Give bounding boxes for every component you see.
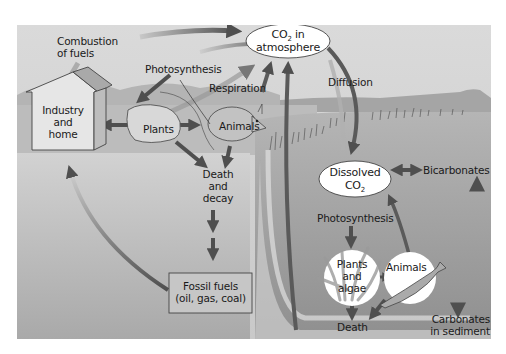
co2-text: CO xyxy=(271,28,287,41)
animals-land-node: Animals xyxy=(219,120,259,132)
plants-text: Plants xyxy=(330,258,374,270)
respiration-label: Respiration xyxy=(209,82,266,94)
fossil-types-text: (oil, gas, coal) xyxy=(169,292,252,304)
carbonates-sediment-node: Carbonates in sediment xyxy=(428,313,490,337)
in-sediment-text: in sediment xyxy=(428,325,490,337)
co2-in-text: in xyxy=(292,28,305,41)
plants-algae-node: Plants and algae xyxy=(330,258,374,294)
co2-subscript: 2 xyxy=(361,186,365,194)
plants-land-node: Plants xyxy=(143,123,174,135)
industry-text: Industry xyxy=(34,104,92,116)
carbonates-text: Carbonates xyxy=(428,313,490,325)
dissolved-text: Dissolved xyxy=(320,166,390,179)
photosynthesis-water-label: Photosynthesis xyxy=(317,212,394,224)
industry-home-node: Industry and home xyxy=(34,104,92,140)
co2-text: CO xyxy=(345,179,361,192)
combustion-line1: Combustion xyxy=(57,35,118,47)
bicarbonates-node: Bicarbonates xyxy=(423,164,489,176)
home-text: home xyxy=(34,128,92,140)
fossil-fuels-text: Fossil fuels xyxy=(169,280,252,292)
combustion-line2: of fuels xyxy=(57,47,118,59)
combustion-label: Combustion of fuels xyxy=(57,35,118,59)
photosynthesis-land-label: Photosynthesis xyxy=(145,63,222,75)
dissolved-co2-node: Dissolved CO2 xyxy=(320,166,390,192)
death-text: Death xyxy=(198,168,238,180)
algae-text: algae xyxy=(330,282,374,294)
diffusion-label: Diffusion xyxy=(328,76,373,88)
and-text: and xyxy=(198,180,238,192)
and-text: and xyxy=(34,116,92,128)
atmosphere-text: atmosphere xyxy=(252,41,324,54)
animals-water-node: Animals xyxy=(386,261,426,273)
fossil-fuels-node: Fossil fuels (oil, gas, coal) xyxy=(169,280,252,304)
and-text: and xyxy=(330,270,374,282)
death-decay-node: Death and decay xyxy=(198,168,238,204)
death-water-node: Death xyxy=(337,321,368,333)
co2-atmosphere-node: CO2 in atmosphere xyxy=(252,28,324,54)
decay-text: decay xyxy=(198,192,238,204)
